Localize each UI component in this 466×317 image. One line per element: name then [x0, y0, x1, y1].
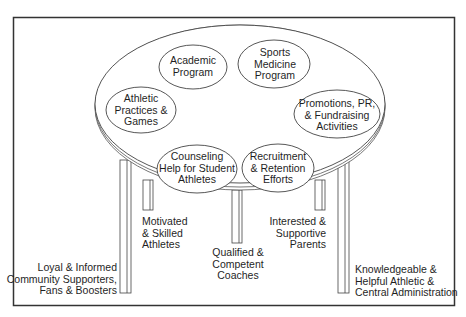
- leg-label-administration: Knowledgeable & Helpful Athletic & Centr…: [355, 264, 465, 299]
- oval-label-counseling: Counseling Help for Student Athletes: [157, 151, 237, 186]
- leg-community: [120, 160, 131, 293]
- leg-label-athletes: Motivated & Skilled Athletes: [142, 216, 202, 251]
- leg-label-parents: Interested & Supportive Parents: [256, 216, 326, 251]
- leg-label-coaches: Qualified & Competent Coaches: [205, 247, 271, 282]
- leg-coaches: [232, 190, 242, 243]
- oval-label-recruitment: Recruitment & Retention Efforts: [243, 151, 313, 186]
- leg-parents: [315, 180, 325, 210]
- oval-label-promotions: Promotions, PR, & Fundraising Activities: [295, 98, 379, 133]
- oval-label-academic: Academic Program: [163, 55, 223, 78]
- oval-label-sports-medicine: Sports Medicine Program: [240, 47, 310, 82]
- leg-label-community: Loyal & Informed Community Supporters, F…: [0, 262, 117, 297]
- leg-administration: [338, 160, 349, 293]
- oval-label-athletic-practices: Athletic Practices & Games: [108, 93, 174, 128]
- table-diagram: Academic Program Sports Medicine Program…: [0, 0, 466, 317]
- leg-athletes: [143, 180, 153, 210]
